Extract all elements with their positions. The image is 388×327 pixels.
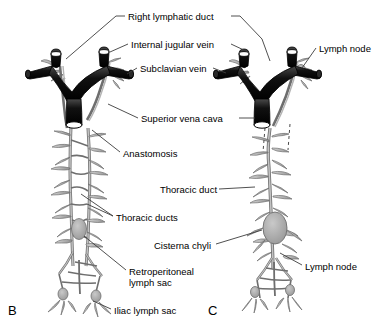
panel-letter-c: C bbox=[208, 303, 217, 318]
panel-c-illustration bbox=[213, 47, 321, 313]
label-right-lymphatic-duct: Right lymphatic duct bbox=[128, 11, 214, 22]
label-cisterna-chyli: Cisterna chyli bbox=[154, 240, 211, 251]
label-internal-jugular-vein: Internal jugular vein bbox=[131, 39, 214, 50]
lymphatic-development-figure: Right lymphatic duct Internal jugular ve… bbox=[0, 0, 388, 327]
label-retroperitoneal-lymph-sac-line2: lymph sac bbox=[129, 277, 172, 288]
label-thoracic-duct: Thoracic duct bbox=[160, 184, 217, 195]
label-lymph-node-top-right: Lymph node bbox=[319, 43, 371, 54]
label-iliac-lymph-sac: Iliac lymph sac bbox=[114, 305, 176, 316]
label-lymph-node-bottom-right: Lymph node bbox=[305, 261, 357, 272]
panel-b-lymphatic-plexus bbox=[41, 58, 124, 317]
panel-letter-b: B bbox=[8, 303, 17, 318]
label-anastomosis: Anastomosis bbox=[123, 148, 177, 159]
label-retroperitoneal-lymph-sac: Retroperitoneal bbox=[129, 266, 194, 277]
panel-b-illustration bbox=[25, 47, 133, 317]
label-subclavian-vein: Subclavian vein bbox=[140, 63, 207, 74]
label-superior-vena-cava: Superior vena cava bbox=[141, 113, 223, 124]
label-thoracic-ducts: Thoracic ducts bbox=[116, 212, 178, 223]
